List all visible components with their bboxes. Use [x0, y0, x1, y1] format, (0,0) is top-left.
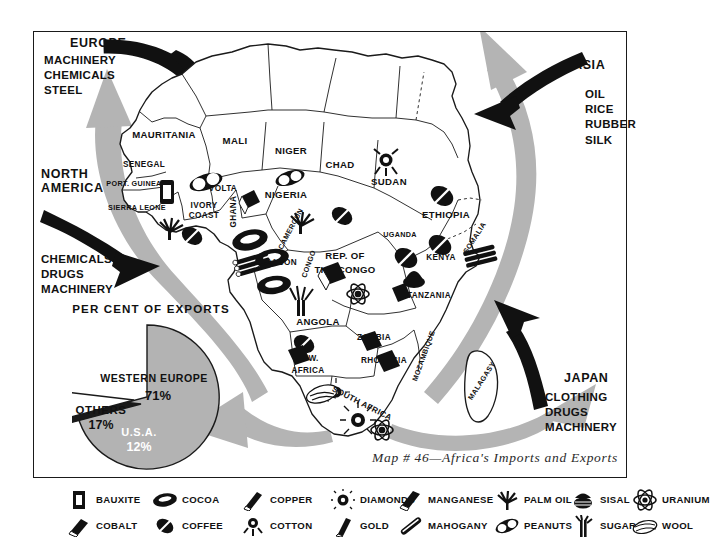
japan-good-1: DRUGS [545, 405, 617, 420]
legend-item-copper: COPPER [240, 487, 313, 512]
legend-item-cocoa: COCOA [152, 487, 219, 512]
pie-chart-title: PER CENT OF EXPORTS [63, 302, 239, 315]
country-label-s-w: S. W. [264, 354, 352, 363]
legend-label: COCOA [182, 494, 219, 505]
na-good-1: DRUGS [41, 267, 113, 282]
legend-item-cobalt: COBALT [66, 513, 137, 538]
country-label-rep-of: REP. OF [301, 251, 389, 262]
legend-item-peanuts: PEANUTS [494, 513, 572, 538]
sugar-icon [570, 515, 596, 537]
partner-goods-japan: CLOTHING DRUGS MACHINERY [545, 390, 617, 436]
partner-label-asia: ASIA [573, 58, 605, 72]
europe-good-2: STEEL [44, 83, 116, 98]
peanuts-icon [494, 515, 520, 537]
europe-good-0: MACHINERY [44, 53, 116, 68]
legend-label: SUGAR [600, 520, 636, 531]
country-label-nigeria: NIGERIA [242, 190, 330, 201]
legend-item-gold: GOLD [330, 513, 389, 538]
country-label-niger: NIGER [247, 146, 335, 157]
country-label-africa: AFRICA [264, 366, 352, 375]
partner-goods-asia: OIL RICE RUBBER SILK [585, 87, 636, 148]
gold-icon [330, 515, 356, 537]
pie-chart: WESTERN EUROPE 71% OTHERS 17% U.S.A. 12% [72, 322, 222, 472]
pie-value-usa: 12% [104, 440, 174, 454]
legend-label: URANIUM [662, 494, 710, 505]
partner-label-japan: JAPAN [564, 371, 608, 385]
cocoa-icon [152, 489, 178, 511]
legend-label: MANGANESE [428, 494, 494, 505]
country-label-zambia: ZAMBIA [330, 333, 418, 342]
country-label-chad: CHAD [296, 160, 384, 171]
coffee-icon [152, 515, 178, 537]
pie-label-western-europe: WESTERN EUROPE [88, 372, 220, 384]
legend-item-sugar: SUGAR [570, 513, 636, 538]
copper-icon [240, 489, 266, 511]
japan-good-0: CLOTHING [545, 390, 617, 405]
country-label-port-guinea: PORT. GUINEA [90, 180, 178, 188]
country-label-the-congo: THE CONGO [301, 265, 389, 276]
commodity-legend: BAUXITECOBALTCOCOACOFFEECOPPERCOTTONDIAM… [36, 487, 636, 545]
cotton-icon [240, 515, 266, 537]
pie-label-usa: U.S.A. [104, 426, 174, 438]
europe-good-1: CHEMICALS [44, 68, 116, 83]
mahogany-icon [398, 515, 424, 537]
legend-item-cotton: COTTON [240, 513, 312, 538]
japan-good-2: MACHINERY [545, 420, 617, 435]
country-label-ethiopia: ETHIOPIA [402, 210, 490, 221]
legend-item-uranium: URANIUM [632, 487, 710, 512]
legend-item-wool: WOOL [632, 513, 693, 538]
legend-label: WOOL [662, 520, 693, 531]
legend-label: PALM OIL [524, 494, 572, 505]
country-label-ghana: GHANA [229, 168, 238, 256]
sisal-icon [570, 489, 596, 511]
legend-label: MAHOGANY [428, 520, 488, 531]
pie-value-western-europe: 71% [118, 388, 198, 403]
partner-goods-europe: MACHINERY CHEMICALS STEEL [44, 53, 116, 99]
partner-goods-north-america: CHEMICALS DRUGS MACHINERY [41, 252, 113, 298]
country-label-sudan: SUDAN [345, 177, 433, 188]
legend-label: SISAL [600, 494, 630, 505]
na-good-0: CHEMICALS [41, 252, 113, 267]
bauxite-icon [66, 489, 92, 511]
country-label-angola: ANGOLA [274, 317, 362, 328]
diamonds-icon [330, 489, 356, 511]
legend-item-coffee: COFFEE [152, 513, 223, 538]
asia-good-3: SILK [585, 133, 636, 148]
legend-item-manganese: MANGANESE [398, 487, 494, 512]
asia-good-1: RICE [585, 102, 636, 117]
cobalt-icon [66, 515, 92, 537]
legend-label: GOLD [360, 520, 389, 531]
legend-label: PEANUTS [524, 520, 572, 531]
palm-oil-icon [494, 489, 520, 511]
legend-label: BAUXITE [96, 494, 141, 505]
legend-label: COBALT [96, 520, 137, 531]
legend-item-bauxite: BAUXITE [66, 487, 141, 512]
legend-label: COFFEE [182, 520, 223, 531]
legend-item-sisal: SISAL [570, 487, 630, 512]
pie-label-others: OTHERS [66, 404, 136, 416]
partner-label-europe: EUROPE [70, 36, 126, 50]
map-caption: Map # 46—Africa's Imports and Exports [372, 450, 618, 466]
manganese-icon [398, 489, 424, 511]
uranium-icon [632, 489, 658, 511]
asia-good-0: OIL [585, 87, 636, 102]
country-label-kenya: KENYA [397, 253, 485, 262]
wool-icon [632, 515, 658, 537]
legend-label: COTTON [270, 520, 312, 531]
legend-item-palm-oil: PALM OIL [494, 487, 572, 512]
na-good-2: MACHINERY [41, 282, 113, 297]
legend-label: COPPER [270, 494, 313, 505]
asia-good-2: RUBBER [585, 117, 636, 132]
country-label-uganda: UGANDA [356, 231, 444, 239]
country-label-tanzania: TANZANIA [385, 291, 473, 300]
legend-item-mahogany: MAHOGANY [398, 513, 488, 538]
country-label-senegal: SENEGAL [100, 160, 188, 169]
north-america-line-0: NORTH [41, 167, 104, 181]
